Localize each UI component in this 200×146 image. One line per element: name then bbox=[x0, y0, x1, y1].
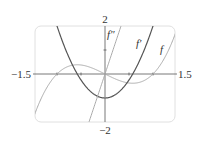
y-min-label: −2 bbox=[99, 124, 111, 136]
label-f-double-prime: f″ bbox=[107, 28, 115, 40]
x-min-label: −1.5 bbox=[11, 68, 31, 80]
y-max-label: 2 bbox=[102, 13, 108, 25]
label-f-prime: f′ bbox=[136, 37, 142, 49]
label-f: f bbox=[160, 43, 165, 55]
x-max-label: 1.5 bbox=[178, 68, 192, 80]
chart: −1.5 1.5 2 −2 f″ f′ f bbox=[0, 0, 200, 146]
